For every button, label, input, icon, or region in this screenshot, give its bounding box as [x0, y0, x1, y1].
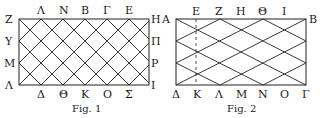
fig1-corner-top-right: H [151, 13, 161, 26]
fig2-corner-bottom-left: Δ [172, 88, 180, 101]
fig2-top-label-5: I [282, 5, 286, 18]
fig2-bottom-label-4: N [258, 88, 268, 101]
fig2-corner-top-left: A [161, 13, 171, 26]
fig2-bottom-label-3: M [236, 88, 247, 101]
fig1-corner-bottom-left: Λ [4, 79, 14, 92]
fig2-top-label-1: E [192, 5, 200, 18]
fig1-left-label-2: M [4, 57, 15, 70]
fig1-right-label-1: Π [151, 35, 161, 48]
fig1-left-label-1: Υ [4, 35, 13, 48]
figure-2 [176, 19, 306, 85]
fig2-bottom-label-1: K [193, 88, 202, 101]
fig1-top-label-4: Γ [103, 4, 111, 17]
fig2-top-label-3: H [236, 5, 246, 18]
fig1-right-label-2: P [151, 57, 159, 70]
fig1-bottom-label-2: Θ [59, 88, 68, 101]
fig1-bottom-label-1: Δ [37, 88, 45, 101]
fig2-bottom-label-5: O [280, 88, 289, 101]
fig1-top-label-1: Λ [36, 4, 46, 17]
fig2-top-label-2: Z [215, 5, 223, 18]
fig1-top-label-5: E [125, 4, 133, 17]
fig1-top-label-3: B [81, 4, 89, 17]
figure-1 [19, 19, 149, 85]
figures-canvas: Z H Λ I Λ N B Γ E Δ Θ K O Σ Υ M Π P Fig.… [0, 0, 323, 118]
fig1-corner-bottom-right: I [151, 79, 155, 92]
fig2-corner-bottom-right: Γ [302, 88, 310, 101]
fig1-caption: Fig. 1 [72, 103, 101, 114]
fig1-bottom-label-5: Σ [125, 88, 133, 101]
fig2-bottom-label-2: Λ [214, 88, 224, 101]
fig1-rectangle [19, 19, 149, 85]
fig1-top-label-2: N [59, 4, 69, 17]
fig1-lattice [19, 19, 149, 85]
fig2-lattice [176, 19, 306, 85]
fig2-top-label-4: Θ [258, 5, 267, 18]
fig1-bottom-label-3: K [81, 88, 90, 101]
fig1-bottom-label-4: O [103, 88, 112, 101]
fig1-corner-top-left: Z [5, 13, 13, 26]
fig2-caption: Fig. 2 [227, 103, 256, 114]
fig2-corner-top-right: B [309, 13, 317, 26]
